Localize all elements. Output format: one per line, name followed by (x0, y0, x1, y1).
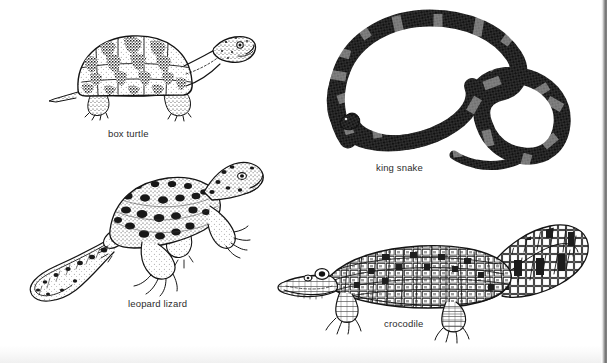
leopard-lizard-illustration (18, 138, 274, 310)
box-turtle-illustration (40, 16, 260, 120)
crocodile-illustration (278, 214, 596, 336)
king-snake-illustration (318, 12, 594, 172)
caption-crocodile: crocodile (384, 318, 423, 329)
figure-box-turtle: box turtle (40, 16, 260, 128)
figure-plate-page: box turtle (0, 0, 607, 363)
caption-king-snake: king snake (376, 162, 423, 173)
scan-edge-bottom (0, 345, 607, 363)
figure-leopard-lizard: leopard lizard (18, 138, 274, 318)
caption-leopard-lizard: leopard lizard (128, 298, 187, 309)
figure-crocodile: crocodile (278, 214, 596, 342)
scan-edge-right (601, 0, 607, 363)
figure-king-snake: king snake (318, 12, 594, 180)
